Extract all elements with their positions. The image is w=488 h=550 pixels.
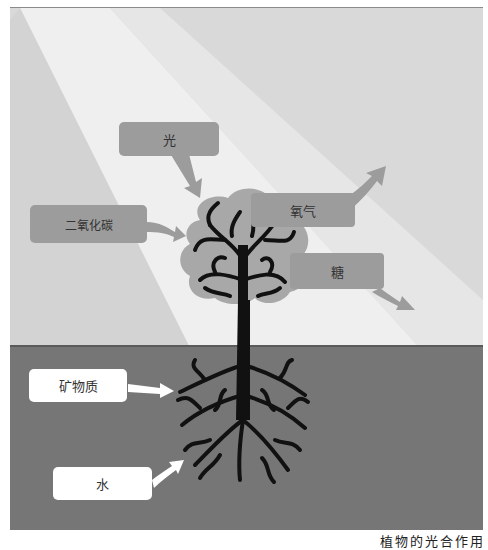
minerals-label-box: 矿物质: [29, 369, 127, 402]
co2-label: 二氧化碳: [65, 216, 113, 233]
sugar-label-box: 糖: [290, 253, 384, 289]
photosynthesis-scene: [10, 8, 483, 530]
diagram-frame: [10, 8, 483, 530]
oxygen-label-box: 氧气: [251, 193, 355, 227]
light-label-box: 光: [119, 122, 219, 156]
co2-label-box: 二氧化碳: [30, 205, 147, 243]
water-label-box: 水: [53, 467, 152, 500]
oxygen-label: 氧气: [290, 201, 316, 220]
light-label: 光: [163, 130, 176, 149]
water-label: 水: [96, 474, 109, 493]
figure-caption: 植物的光合作用: [380, 531, 485, 550]
sugar-label: 糖: [331, 262, 344, 281]
minerals-label: 矿物质: [59, 376, 98, 395]
